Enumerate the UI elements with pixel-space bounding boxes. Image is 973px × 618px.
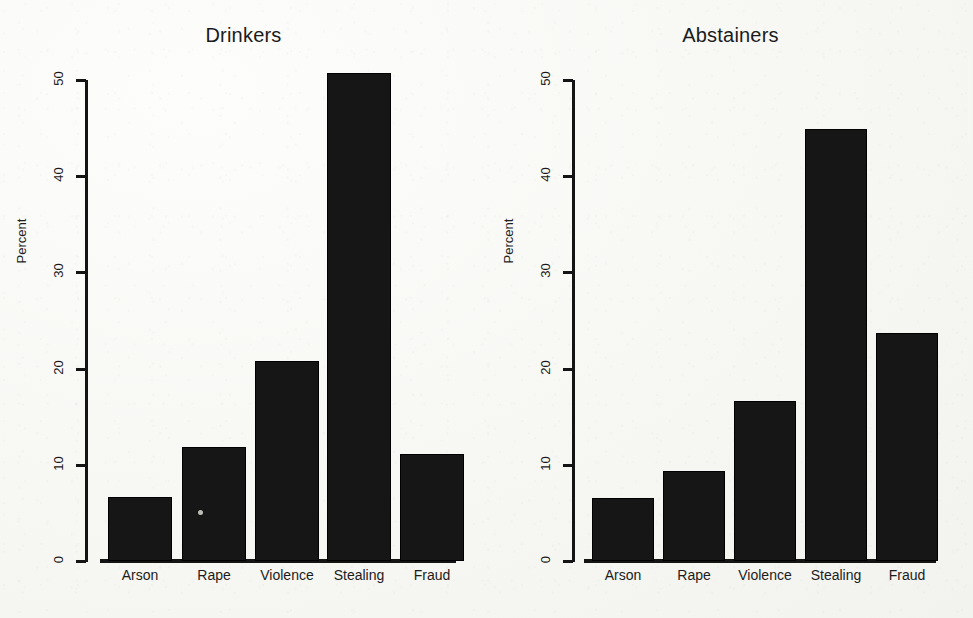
bar-fraud [876, 333, 938, 561]
chart-panel-drinkers: Drinkers Percent 01020304050 ArsonRapeVi… [0, 0, 487, 618]
y-axis-tick-20 [76, 368, 86, 371]
y-axis-tick-label-0: 0 [538, 546, 553, 574]
y-axis-tick-30 [563, 271, 573, 274]
bar-stealing [805, 129, 867, 561]
bar-rape [663, 471, 725, 561]
bar-violence [734, 401, 796, 561]
y-axis-title-abstainers: Percent [501, 191, 516, 291]
x-axis-label-fraud: Fraud [858, 567, 956, 583]
y-axis-tick-0 [563, 560, 573, 563]
y-axis-tick-10 [563, 464, 573, 467]
y-axis-tick-30 [76, 271, 86, 274]
chart-panel-abstainers: Abstainers Percent 01020304050 ArsonRape… [487, 0, 973, 618]
bar-rape [182, 447, 246, 561]
y-axis-tick-label-10: 10 [51, 449, 66, 477]
y-axis-line-drinkers [85, 80, 88, 562]
bar-arson [108, 497, 172, 561]
y-axis-tick-50 [563, 79, 573, 82]
bar-fraud [400, 454, 464, 561]
y-axis-tick-label-10: 10 [538, 449, 553, 477]
y-axis-tick-20 [563, 368, 573, 371]
plot-area-drinkers: Percent 01020304050 ArsonRapeViolenceSte… [0, 0, 487, 618]
plot-area-abstainers: Percent 01020304050 ArsonRapeViolenceSte… [487, 0, 973, 618]
y-axis-title-drinkers: Percent [14, 191, 29, 291]
y-axis-line-abstainers [572, 80, 575, 562]
bar-violence [255, 361, 319, 561]
y-axis-tick-label-0: 0 [51, 546, 66, 574]
y-axis-tick-40 [563, 175, 573, 178]
x-axis-label-fraud: Fraud [382, 567, 482, 583]
y-axis-tick-label-30: 30 [51, 257, 66, 285]
y-axis-tick-40 [76, 175, 86, 178]
y-axis-tick-label-30: 30 [538, 257, 553, 285]
y-axis-tick-label-50: 50 [51, 65, 66, 93]
bar-arson [592, 498, 654, 561]
scan-speck-artifact [198, 510, 203, 515]
y-axis-tick-label-20: 20 [538, 353, 553, 381]
y-axis-tick-label-40: 40 [51, 161, 66, 189]
y-axis-tick-50 [76, 79, 86, 82]
y-axis-tick-label-20: 20 [51, 353, 66, 381]
y-axis-tick-label-40: 40 [538, 161, 553, 189]
bar-stealing [327, 73, 391, 561]
y-axis-tick-10 [76, 464, 86, 467]
y-axis-tick-0 [76, 560, 86, 563]
y-axis-tick-label-50: 50 [538, 65, 553, 93]
